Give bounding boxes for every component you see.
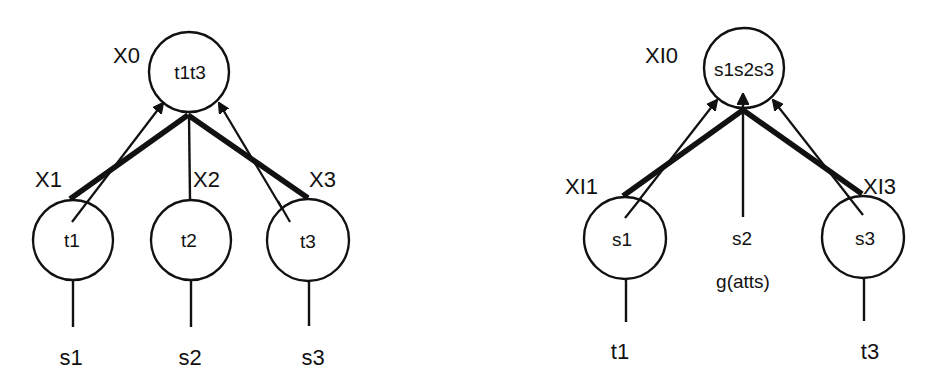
leaf-label-s3: s3	[301, 345, 324, 370]
child-node-label-s1: s1	[612, 229, 632, 250]
edge-label-x3: X3	[309, 167, 336, 192]
left-tree: t1t3 X0 t1 t2 t3 X1 X2 X3 s1 s2 s3	[33, 32, 349, 370]
tree-diagram-canvas: t1t3 X0 t1 t2 t3 X1 X2 X3 s1 s2 s3	[0, 0, 934, 383]
right-tree: s1s2s3 XI0 s1 s3 XI1 XI3 s2 g(atts) t1 t…	[565, 28, 904, 364]
child-node-label-t2: t2	[181, 230, 197, 251]
thick-edge-x1	[70, 115, 188, 199]
edge-label-x1: X1	[35, 167, 62, 192]
leaf-label-s2: s2	[178, 345, 201, 370]
edge-x2	[189, 115, 190, 200]
edge-label-xi0: XI0	[645, 43, 678, 68]
child-node-label-t3: t3	[300, 231, 316, 252]
edge-label-x2: X2	[193, 167, 220, 192]
leaf-label-t3: t3	[861, 339, 879, 364]
root-node-label: s1s2s3	[714, 59, 774, 80]
thick-edge-xi3	[743, 110, 862, 194]
leaf-label-t1: t1	[611, 339, 629, 364]
child-node-label-t1: t1	[64, 230, 80, 251]
edge-label-xi3: XI3	[863, 174, 896, 199]
root-node-label: t1t3	[174, 62, 206, 83]
edge-label-xi1: XI1	[565, 174, 598, 199]
middle-sublabel-g-atts: g(atts)	[716, 271, 770, 292]
edge-label-x0: X0	[113, 43, 140, 68]
leaf-label-s1: s1	[59, 345, 82, 370]
middle-leaf-label-s2: s2	[732, 228, 752, 249]
child-node-label-s3: s3	[855, 228, 875, 249]
thick-edge-xi1	[623, 110, 743, 196]
